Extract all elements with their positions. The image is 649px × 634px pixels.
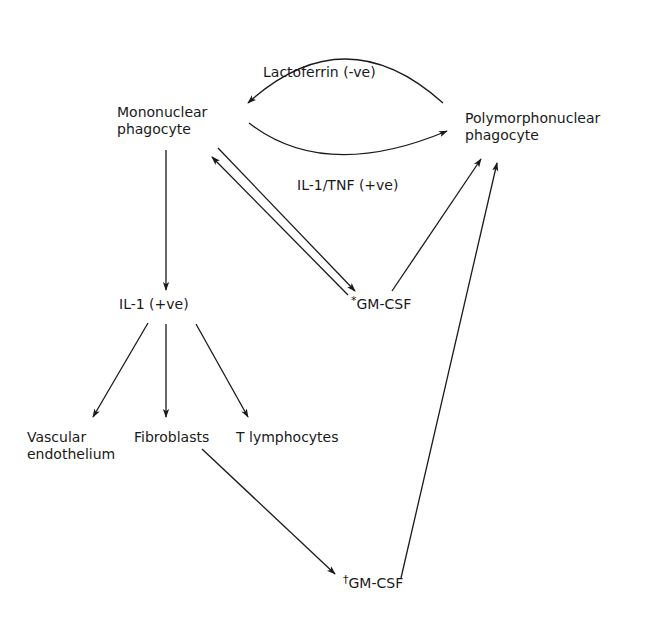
node-gmcsf-star-text: GM-CSF [357,296,412,312]
node-mononuclear-line2: phagocyte [117,121,207,138]
node-polymorphonuclear-line2: phagocyte [465,127,600,144]
edge-il1-to-tlymph [196,324,248,417]
node-fibroblasts: Fibroblasts [134,429,209,446]
node-polymorphonuclear-line1: Polymorphonuclear [465,110,600,127]
node-mononuclear-phagocyte: Mononuclear phagocyte [117,104,207,138]
node-vascular-line2: endothelium [27,446,115,463]
node-mononuclear-line1: Mononuclear [117,104,207,121]
edges-layer [0,0,649,634]
diagram-canvas: Lactoferrin (-ve) IL-1/TNF (+ve) Mononuc… [0,0,649,634]
edge-label-il1-tnf: IL-1/TNF (+ve) [297,177,398,193]
node-gmcsf-star: *GM-CSF [351,296,411,314]
edge-gmcsf-to-poly [392,159,481,291]
node-vascular-endothelium: Vascular endothelium [27,429,115,463]
asterisk-mark: * [351,294,357,307]
edge-gmcsf-dagger-to-poly [401,163,497,578]
edge-il1-tnf [249,123,447,155]
node-il1: IL-1 (+ve) [119,296,189,313]
edge-il1-to-vascular [93,323,148,417]
node-gmcsf-dagger: †GM-CSF [343,575,403,593]
dagger-mark: † [343,573,349,586]
node-gmcsf-dagger-text: GM-CSF [349,575,404,591]
node-t-lymphocytes: T lymphocytes [236,429,339,446]
edge-mono-to-gmcsf [218,148,355,291]
node-vascular-line1: Vascular [27,429,115,446]
edge-fibroblasts-to-gmcsf [202,449,335,574]
edge-label-lactoferrin: Lactoferrin (-ve) [263,64,376,80]
node-polymorphonuclear-phagocyte: Polymorphonuclear phagocyte [465,110,600,144]
